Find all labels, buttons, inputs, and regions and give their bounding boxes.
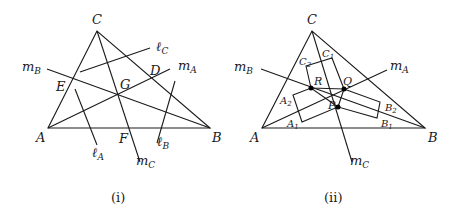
label-point-q: Q [343, 75, 352, 88]
label-point-r: R [313, 75, 322, 88]
label-line-m-a: mA [178, 58, 197, 75]
label-line-l-c: ℓC [156, 39, 168, 56]
figure-ii: C A B P Q R C2 C1 A2 A1 B2 B1 mB mA mC (… [234, 12, 438, 205]
label-line-m-a: mA [390, 58, 409, 75]
label-c2: C2 [299, 56, 312, 69]
label-vertex-c: C [307, 12, 317, 27]
label-line-m-b: mB [22, 59, 41, 76]
point-r-dot [309, 86, 314, 91]
diagram-canvas: C A B E D G F mB mA mC ℓC ℓA ℓB (i) [0, 0, 455, 217]
label-line-m-c: mC [136, 153, 155, 170]
label-vertex-a: A [35, 130, 45, 145]
rectangle-b [338, 89, 380, 118]
label-vertex-a: A [249, 130, 259, 145]
line-l-c [80, 48, 150, 72]
label-line-l-b: ℓB [157, 134, 169, 151]
label-line-l-a: ℓA [92, 145, 104, 162]
label-line-m-c: mC [350, 153, 369, 170]
label-point-f: F [118, 131, 129, 146]
label-b1: B1 [380, 118, 393, 131]
label-point-p: P [327, 99, 336, 112]
label-vertex-c: C [92, 12, 102, 27]
caption-i: (i) [111, 190, 125, 205]
label-point-e: E [55, 79, 66, 94]
label-vertex-b: B [427, 130, 438, 145]
point-p-dot [336, 105, 341, 110]
label-line-m-b: mB [234, 59, 253, 76]
label-point-d: D [149, 63, 161, 78]
caption-ii: (ii) [324, 190, 342, 205]
line-l-a [75, 89, 97, 145]
label-a2: A2 [279, 95, 292, 108]
line-m-c [312, 31, 352, 162]
label-vertex-b: B [211, 130, 222, 145]
figure-i: C A B E D G F mB mA mC ℓC ℓA ℓB (i) [22, 12, 222, 205]
label-b2: B2 [384, 102, 397, 115]
label-point-g: G [120, 77, 130, 92]
label-a1: A1 [286, 118, 299, 131]
